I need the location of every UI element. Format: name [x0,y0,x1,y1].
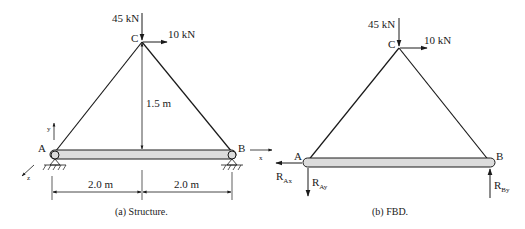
fbd-load-45kn-label: 45 kN [368,18,395,30]
reaction-ay-label: RAy [312,176,328,191]
fbd-member-ac [307,48,399,162]
load-10kn-label: 10 kN [168,28,195,40]
y-axis-label: y [47,125,51,133]
reaction-ax-label: RAx [276,170,292,185]
fbd-node-a-label: A [294,150,302,162]
fbd-node-c-label: C [388,38,395,50]
span-left-label: 2.0 m [88,178,114,190]
member-ac [55,42,142,152]
reaction-by-label: RBy [494,179,510,194]
figure-fbd: 45 kN 10 kN C A B RAx RAy RBy (b) FBD. [276,18,510,218]
figure-structure: 45 kN 10 kN C A B 1.5 m 2.0 m 2.0 m y z … [22,12,272,218]
fbd-node-b-label: B [496,150,503,162]
diagram-canvas: 45 kN 10 kN C A B 1.5 m 2.0 m 2.0 m y z … [0,0,525,229]
span-right-label: 2.0 m [174,178,200,190]
caption-structure: (a) Structure. [115,206,168,218]
fbd-member-bc [399,48,490,162]
caption-fbd: (b) FBD. [372,206,408,218]
pin-a [51,151,59,159]
load-45kn-label: 45 kN [112,12,139,24]
x-axis-label: x [259,154,263,162]
beam-ab [50,150,236,159]
node-b-label: B [238,142,245,154]
fbd-beam-ab [303,158,495,167]
z-axis-label: z [27,174,30,182]
support-b-icon [221,159,243,170]
height-dimension-label: 1.5 m [146,97,172,109]
node-a-label: A [38,142,46,154]
support-a-icon [43,159,66,170]
pin-b [228,151,236,159]
fbd-load-10kn-label: 10 kN [424,34,451,46]
node-c-label: C [131,32,138,44]
